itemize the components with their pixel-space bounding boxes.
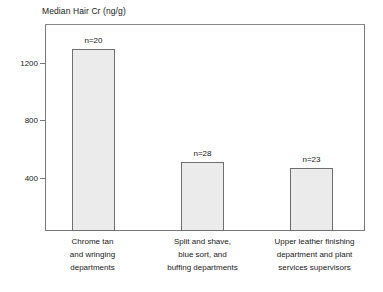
bar-rect-1[interactable] [72,49,115,231]
x-category-3-line3: services supervisors [254,261,375,274]
x-category-3-line1: Upper leather finishing [254,235,375,248]
y-tick-label-1200: 1200 [8,59,38,68]
x-category-1-line2: and wringing [35,248,150,261]
bar-rect-3[interactable] [290,168,333,231]
bars-layer: n=20 n=28 n=23 [45,24,365,231]
x-category-2: Split and shave, blue sort, and buffing … [145,235,260,274]
bar-annotation-1: n=20 [84,36,102,45]
y-axis: 1200 800 400 [0,0,38,292]
x-category-3: Upper leather finishing department and p… [254,235,375,274]
y-tick-label-800: 800 [8,116,38,125]
x-category-1-line3: departments [35,261,150,274]
bar-group-3: n=23 [290,24,333,231]
y-tick-label-400: 400 [8,174,38,183]
bar-annotation-2: n=28 [193,149,211,158]
bar-group-2: n=28 [181,24,224,231]
bar-chart: Median Hair Cr (ng/g) 1200 800 400 n=20 … [0,0,383,292]
x-axis-labels: Chrome tan and wringing departments Spli… [45,235,365,290]
x-category-1: Chrome tan and wringing departments [35,235,150,274]
x-category-1-line1: Chrome tan [35,235,150,248]
x-category-2-line1: Split and shave, [145,235,260,248]
bar-annotation-3: n=23 [302,155,320,164]
chart-title: Median Hair Cr (ng/g) [42,6,126,16]
x-category-3-line2: department and plant [254,248,375,261]
x-category-2-line2: blue sort, and [145,248,260,261]
bar-group-1: n=20 [72,24,115,231]
bar-rect-2[interactable] [181,162,224,231]
x-category-2-line3: buffing departments [145,261,260,274]
